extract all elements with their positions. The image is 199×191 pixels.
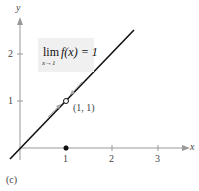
y-tick-1: 1 xyxy=(8,95,13,106)
limit-subscript: x→1 xyxy=(42,59,56,67)
graph-canvas xyxy=(0,0,199,191)
limit-expression: f(x) = 1 xyxy=(61,45,98,60)
x-tick-3: 3 xyxy=(155,153,160,164)
x-axis-label: x xyxy=(190,141,194,152)
x-axis-arrow-icon xyxy=(182,145,190,151)
limit-lim: lim xyxy=(43,45,59,60)
point-label: (1, 1) xyxy=(73,102,95,113)
x-tick-1: 1 xyxy=(63,153,68,164)
panel-label: (c) xyxy=(6,174,17,185)
y-axis-arrow-icon xyxy=(17,17,23,25)
open-circle-point xyxy=(64,99,69,104)
x-tick-2: 2 xyxy=(109,153,114,164)
y-axis-label: y xyxy=(16,2,20,13)
y-tick-2: 2 xyxy=(8,48,13,59)
filled-point xyxy=(64,146,69,151)
